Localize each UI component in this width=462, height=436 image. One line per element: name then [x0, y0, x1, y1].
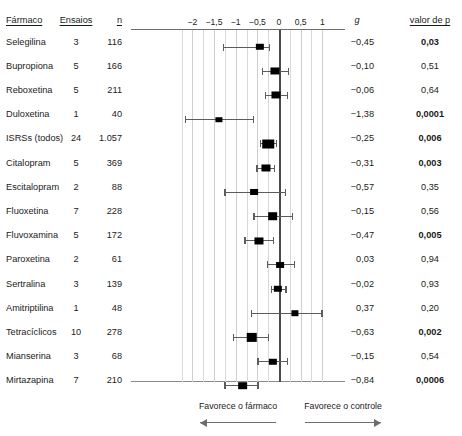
ci-cap-low	[244, 237, 245, 244]
row-p-value: 0,64	[394, 86, 462, 95]
axis-tick-label: 1	[320, 17, 325, 27]
row-effect-size: −0,15	[340, 352, 374, 361]
row-p-value: 0,94	[394, 255, 462, 264]
effect-size-marker	[255, 44, 263, 50]
ci-cap-high	[321, 310, 322, 317]
row-p-value: 0,0006	[394, 376, 462, 385]
row-sample-size: 48	[92, 304, 122, 313]
row-drug-name: Sertralina	[6, 280, 45, 289]
row-p-value: 0,005	[394, 231, 462, 240]
gridline	[247, 30, 248, 382]
ci-cap-low	[260, 140, 261, 147]
row-drug-name: Fluvoxamina	[6, 231, 58, 240]
right-arrow-head	[374, 419, 381, 427]
row-sample-size: 116	[92, 38, 122, 47]
ci-cap-high	[253, 116, 254, 123]
effect-size-marker	[274, 286, 282, 292]
gridline	[311, 30, 312, 382]
row-drug-name: Fluoxetina	[6, 207, 48, 216]
effect-size-marker	[268, 358, 276, 364]
row-sample-size: 88	[92, 183, 122, 192]
ci-cap-high	[287, 358, 288, 365]
ci-cap-high	[276, 140, 277, 147]
row-effect-size: −0,45	[340, 38, 374, 47]
row-effect-size: −0,57	[340, 183, 374, 192]
row-sample-size: 61	[92, 255, 122, 264]
row-drug-name: Amitriptilina	[6, 304, 53, 313]
row-sample-size: 166	[92, 62, 122, 71]
ci-cap-high	[294, 261, 295, 268]
gridline	[290, 30, 291, 382]
gridline	[301, 30, 302, 382]
row-effect-size: −0,63	[340, 328, 374, 337]
plot-area	[131, 30, 345, 382]
gridline	[203, 30, 204, 382]
row-effect-size: 0,37	[340, 304, 374, 313]
row-effect-size: −0,15	[340, 207, 374, 216]
confidence-interval-line	[251, 313, 322, 314]
row-p-value: 0,35	[394, 183, 462, 192]
header-g: g	[340, 16, 374, 25]
effect-size-marker	[254, 237, 263, 244]
effect-size-marker	[238, 382, 248, 390]
header-drug: Fármaco	[6, 16, 42, 25]
left-arrow-icon	[200, 418, 276, 427]
ci-cap-low	[224, 382, 225, 389]
footer-label-left: Favorece o fármaco	[199, 401, 277, 411]
row-effect-size: −0,47	[340, 231, 374, 240]
row-effect-size: −1,38	[340, 110, 374, 119]
row-effect-size: −0,02	[340, 280, 374, 289]
row-drug-name: Paroxetina	[6, 255, 50, 264]
ci-cap-high	[273, 237, 274, 244]
ci-cap-low	[223, 44, 224, 51]
gridline	[225, 30, 226, 382]
row-effect-size: −0,84	[340, 376, 374, 385]
row-p-value: 0,003	[394, 159, 462, 168]
row-drug-name: Duloxetina	[6, 110, 49, 119]
ci-cap-high	[288, 68, 289, 75]
row-p-value: 0,51	[394, 62, 462, 71]
row-drug-name: Tetracíclicos	[6, 328, 57, 337]
ci-cap-low	[233, 334, 234, 341]
row-effect-size: −0,10	[340, 62, 374, 71]
ci-cap-high	[292, 213, 293, 220]
ci-cap-low	[262, 68, 263, 75]
ci-cap-high	[287, 92, 288, 99]
gridline	[214, 30, 215, 382]
axis-tick-label: −1	[231, 17, 241, 27]
row-sample-size: 210	[92, 376, 122, 385]
effect-size-marker	[250, 189, 258, 195]
row-sample-size: 228	[92, 207, 122, 216]
right-arrow-shaft	[305, 422, 381, 423]
effect-size-marker	[216, 117, 223, 123]
row-sample-size: 139	[92, 280, 122, 289]
ci-cap-low	[271, 286, 272, 293]
row-p-value: 0,002	[394, 328, 462, 337]
effect-size-marker	[246, 333, 257, 341]
gridline	[268, 30, 269, 382]
ci-cap-low	[185, 116, 186, 123]
footer-label-right: Favorece o controle	[304, 401, 382, 411]
row-effect-size: −0,31	[340, 159, 374, 168]
ci-cap-high	[268, 334, 269, 341]
row-drug-name: Escitalopram	[6, 183, 59, 192]
row-drug-name: Bupropiona	[6, 62, 53, 71]
ci-cap-low	[265, 92, 266, 99]
header-n: n	[92, 16, 122, 25]
row-p-value: 0,93	[394, 280, 462, 289]
ci-cap-low	[253, 213, 254, 220]
ci-cap-low	[224, 189, 225, 196]
ci-cap-low	[257, 358, 258, 365]
ci-cap-high	[285, 286, 286, 293]
axis-tick-label: −0,5	[249, 17, 266, 27]
gridline	[322, 30, 323, 382]
row-p-value: 0,006	[394, 134, 462, 143]
axis-tick-label: 0	[277, 17, 282, 27]
row-sample-size: 369	[92, 159, 122, 168]
null-effect-line	[279, 30, 281, 382]
row-sample-size: 172	[92, 231, 122, 240]
effect-size-marker	[272, 92, 281, 99]
effect-size-marker	[270, 68, 279, 75]
ci-cap-high	[274, 165, 275, 172]
row-effect-size: 0,03	[340, 255, 374, 264]
